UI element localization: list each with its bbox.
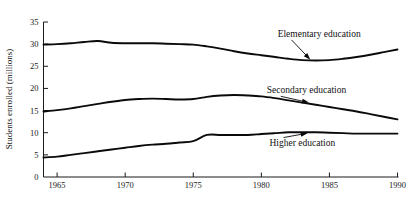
x-tick-label: 1985 xyxy=(321,180,338,190)
x-axis-ticks: 196519701975198019851990 xyxy=(49,173,406,191)
series-line xyxy=(44,95,398,119)
x-tick-label: 1975 xyxy=(185,180,202,190)
series-line xyxy=(44,41,398,61)
chart-canvas: 05101520253035 196519701975198019851990 … xyxy=(0,0,414,200)
y-tick-label: 15 xyxy=(30,106,39,116)
series-annotation-label: Secondary education xyxy=(267,85,347,95)
x-tick-label: 1965 xyxy=(49,180,66,190)
series-annotation-label: Elementary education xyxy=(278,29,361,39)
y-tick-label: 10 xyxy=(30,128,39,138)
y-tick-label: 0 xyxy=(34,172,38,182)
x-tick-label: 1970 xyxy=(117,180,134,190)
series-annotations: Elementary educationSecondary educationH… xyxy=(267,29,361,148)
y-tick-label: 35 xyxy=(30,17,39,27)
axes xyxy=(44,22,399,177)
y-axis-title: Students enrolled (millions) xyxy=(4,49,14,150)
x-tick-label: 1990 xyxy=(389,180,406,190)
series-lines xyxy=(44,41,398,157)
axis-lines xyxy=(44,22,399,177)
annotation-leader-line xyxy=(292,40,307,56)
series-line xyxy=(44,132,398,157)
y-tick-label: 30 xyxy=(30,39,39,49)
enrollment-line-chart: 05101520253035 196519701975198019851990 … xyxy=(0,0,414,200)
y-tick-label: 5 xyxy=(34,150,38,160)
annotation-arrow-head xyxy=(302,99,309,104)
series-annotation-label: Higher education xyxy=(270,138,336,148)
y-tick-label: 20 xyxy=(30,83,39,93)
x-tick-label: 1980 xyxy=(253,180,270,190)
y-tick-label: 25 xyxy=(30,61,39,71)
